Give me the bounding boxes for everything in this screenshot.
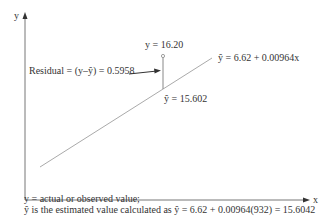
residual-arrow-icon (154, 69, 161, 74)
residual-label: Residual = (y–ŷ) = 0.5958 (29, 65, 134, 76)
regression-equation-label: ŷ = 6.62 + 0.00964x (218, 52, 299, 63)
actual-point (161, 54, 164, 57)
diagram-canvas (0, 0, 334, 216)
y-axis-label: y (14, 10, 19, 21)
x-axis-arrow-icon (303, 198, 310, 203)
y-axis-arrow-icon (23, 12, 28, 19)
caption-line-2: ŷ is the estimated value calculated as ŷ… (24, 204, 315, 215)
caption-line-1: y = actual or observed value; (24, 193, 140, 204)
actual-point-label: y = 16.20 (145, 39, 183, 50)
predicted-point-label: ŷ = 15.602 (164, 93, 207, 104)
